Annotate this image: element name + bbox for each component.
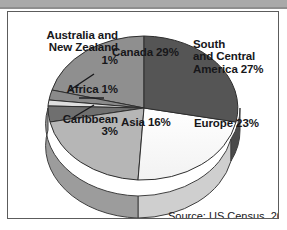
top-decorative-band bbox=[0, 0, 287, 7]
label-australia-new-zealand: Australia and New Zealand 1% bbox=[14, 29, 118, 66]
label-caribbean: Caribbean 3% bbox=[14, 113, 118, 138]
chart-plot-area: Australia and New Zealand 1% Africa 1% C… bbox=[7, 11, 279, 219]
label-asia: Asia 16% bbox=[121, 116, 171, 128]
top-band-shadow bbox=[0, 7, 287, 9]
label-africa: Africa 1% bbox=[14, 83, 118, 95]
label-europe: Europe 23% bbox=[194, 117, 259, 129]
source-note: Source: US Census, 2000 bbox=[168, 210, 279, 219]
label-south-central-america: South and Central America 27% bbox=[193, 38, 264, 75]
chart-figure: Australia and New Zealand 1% Africa 1% C… bbox=[0, 0, 287, 230]
label-canada: Canada 29% bbox=[112, 46, 179, 58]
